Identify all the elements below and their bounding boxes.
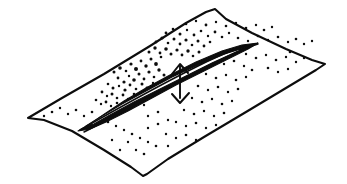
ejecta-speck bbox=[207, 35, 209, 37]
ejecta-speck bbox=[118, 66, 122, 70]
ejecta-speck bbox=[195, 20, 197, 22]
ejecta-speck bbox=[157, 123, 160, 126]
figure-container: Hand-drawn diagram of a fissure in a spe… bbox=[0, 0, 347, 184]
ejecta-speck bbox=[255, 24, 257, 26]
ejecta-speck bbox=[107, 83, 110, 86]
ejecta-speck bbox=[181, 54, 184, 57]
ejecta-speck bbox=[217, 86, 220, 89]
ejecta-speck bbox=[122, 80, 125, 83]
ejecta-speck bbox=[227, 91, 229, 93]
ejecta-speck bbox=[43, 115, 45, 117]
ejecta-speck bbox=[163, 74, 166, 77]
ejecta-speck bbox=[311, 40, 313, 42]
ejecta-speck bbox=[131, 133, 134, 136]
ejecta-speck bbox=[167, 119, 169, 121]
ejecta-speck bbox=[157, 111, 160, 114]
ejecta-speck bbox=[153, 76, 156, 79]
ejecta-speck bbox=[223, 112, 226, 115]
ejecta-speck bbox=[185, 23, 188, 26]
ejecta-speck bbox=[155, 145, 158, 148]
ejecta-speck bbox=[303, 43, 305, 45]
ejecta-speck bbox=[271, 26, 273, 28]
ejecta-speck bbox=[193, 113, 196, 116]
ejecta-speck bbox=[200, 30, 203, 33]
ejecta-speck bbox=[243, 65, 245, 67]
ejecta-speck bbox=[207, 89, 209, 91]
ejecta-speck bbox=[235, 22, 237, 24]
ejecta-speck bbox=[127, 141, 129, 143]
ejecta-speck bbox=[247, 40, 249, 42]
ejecta-speck bbox=[167, 145, 169, 147]
ejecta-speck bbox=[267, 67, 270, 70]
ejecta-speck bbox=[275, 59, 278, 62]
ejecta-speck bbox=[233, 60, 236, 63]
ejecta-speck bbox=[205, 24, 208, 27]
ejecta-speck bbox=[134, 67, 138, 71]
ejecta-speck bbox=[101, 91, 104, 94]
ejecta-speck bbox=[159, 52, 162, 55]
ejecta-speck bbox=[237, 88, 240, 91]
ejecta-speck bbox=[147, 70, 150, 73]
ejecta-speck bbox=[277, 71, 279, 73]
ejecta-speck bbox=[110, 105, 112, 107]
ejecta-speck bbox=[263, 29, 266, 32]
ejecta-speck bbox=[160, 56, 163, 59]
ejecta-speck bbox=[257, 35, 260, 38]
ejecta-speck bbox=[251, 69, 254, 72]
ejecta-speck bbox=[125, 70, 128, 73]
ejecta-speck bbox=[147, 127, 149, 129]
ejecta-speck bbox=[245, 76, 247, 78]
ejecta-speck bbox=[164, 47, 168, 51]
ejecta-speck bbox=[116, 102, 119, 105]
ejecta-speck bbox=[267, 39, 269, 41]
ejecta-speck bbox=[138, 73, 141, 76]
ejecta-speck bbox=[143, 104, 145, 106]
ejecta-speck bbox=[119, 149, 121, 151]
ejecta-speck bbox=[135, 88, 138, 91]
ejecta-speck bbox=[225, 25, 228, 28]
ejecta-speck bbox=[197, 40, 200, 43]
ejecta-speck bbox=[122, 94, 125, 97]
ejecta-speck bbox=[221, 36, 224, 39]
ejecta-speck bbox=[75, 109, 78, 112]
ejecta-speck bbox=[245, 53, 247, 55]
ejecta-speck bbox=[147, 141, 149, 143]
ejecta-speck bbox=[295, 61, 297, 63]
ejecta-speck bbox=[157, 68, 160, 71]
ejecta-speck bbox=[129, 62, 132, 65]
ejecta-speck bbox=[153, 46, 156, 49]
ejecta-speck bbox=[215, 21, 217, 23]
ejecta-speck bbox=[198, 51, 201, 54]
ejecta-speck bbox=[115, 125, 117, 127]
ejecta-speck bbox=[83, 115, 85, 117]
ejecta-speck bbox=[221, 103, 224, 106]
ejecta-speck bbox=[237, 37, 240, 40]
ejecta-speck bbox=[231, 100, 233, 102]
ejecta-speck bbox=[175, 121, 177, 123]
ejecta-speck bbox=[100, 103, 102, 105]
ejecta-speck bbox=[150, 58, 153, 61]
ejecta-speck bbox=[105, 101, 108, 104]
ejecta-speck bbox=[128, 75, 130, 77]
ejecta-speck bbox=[123, 88, 126, 91]
ejecta-speck bbox=[287, 41, 289, 43]
ejecta-speck bbox=[172, 28, 175, 31]
ejecta-speck bbox=[197, 85, 200, 88]
ejecta-speck bbox=[175, 48, 178, 51]
ejecta-speck bbox=[277, 36, 280, 39]
ejecta-speck bbox=[287, 68, 289, 70]
ejecta-speck bbox=[235, 79, 238, 82]
ejecta-speck bbox=[193, 34, 196, 37]
ejecta-speck bbox=[129, 84, 132, 87]
ejecta-speck bbox=[195, 122, 198, 125]
ejecta-speck bbox=[135, 149, 137, 151]
ejecta-speck bbox=[186, 49, 189, 52]
ejecta-speck bbox=[170, 53, 173, 56]
ejecta-speck bbox=[289, 51, 292, 54]
ejecta-speck bbox=[186, 29, 188, 31]
ejecta-speck bbox=[116, 97, 119, 100]
ejecta-speck bbox=[118, 85, 120, 87]
ejecta-speck bbox=[191, 97, 193, 99]
ejecta-speck bbox=[111, 93, 114, 96]
ejecta-speck bbox=[175, 137, 177, 139]
